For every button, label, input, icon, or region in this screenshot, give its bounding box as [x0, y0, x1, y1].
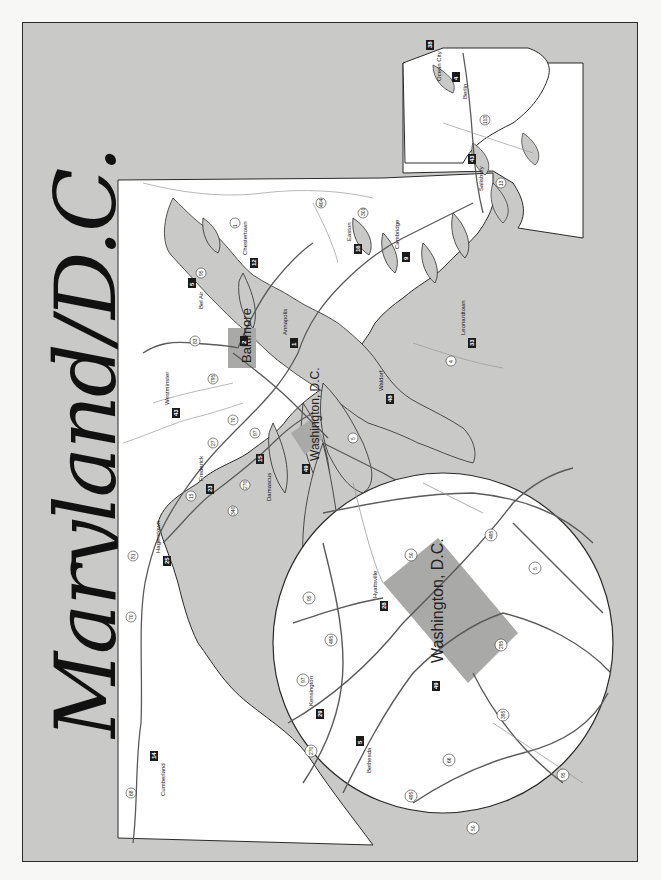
svg-text:Waldorf: Waldorf [378, 370, 384, 391]
inset-shield-395: 395 [497, 709, 509, 721]
svg-text:Leonardtown: Leonardtown [460, 300, 466, 335]
svg-text:15: 15 [188, 493, 194, 499]
svg-text:395: 395 [500, 710, 506, 719]
inset-washington-label: Washington, D.C. [429, 538, 446, 663]
route-shield-340: 340 [228, 506, 238, 516]
svg-text:Easton: Easton [346, 222, 352, 241]
inset-shield-50-south: 50 [467, 822, 479, 834]
svg-text:70: 70 [128, 614, 134, 620]
svg-text:70: 70 [230, 417, 236, 423]
svg-text:25: 25 [164, 557, 170, 564]
svg-text:Westminster: Westminster [164, 372, 170, 405]
route-shield-113: 113 [480, 115, 490, 125]
inset-shield-495-nw: 495 [325, 634, 337, 646]
svg-text:12: 12 [251, 259, 257, 266]
svg-text:5: 5 [532, 567, 538, 570]
inset-shield-66: 66 [443, 754, 455, 766]
svg-text:495: 495 [408, 791, 414, 800]
svg-text:Frederick: Frederick [198, 455, 204, 481]
map-frame: Maryland/D.C. [22, 22, 638, 862]
city-washington-dc[interactable]: 49 [302, 464, 310, 474]
svg-text:16: 16 [355, 245, 361, 252]
inset-shield-495-ne: 495 [485, 529, 497, 541]
route-shield-81: 81 [128, 551, 138, 561]
svg-text:49: 49 [433, 682, 439, 689]
svg-text:404: 404 [318, 198, 324, 207]
svg-text:23: 23 [207, 485, 213, 492]
svg-text:Cambridge: Cambridge [394, 219, 400, 249]
baltimore-label: Baltimore [239, 308, 254, 363]
svg-text:Cumberland: Cumberland [160, 763, 166, 796]
route-shield-301: 1 [230, 218, 240, 228]
route-shield-404: 404 [316, 198, 326, 208]
svg-text:5: 5 [350, 437, 356, 440]
svg-text:Hyattsville: Hyattsville [372, 570, 378, 598]
route-shield-15: 15 [186, 491, 196, 501]
route-shield-795: 795 [208, 374, 218, 384]
inset-shield-495-sw: 495 [405, 790, 417, 802]
svg-text:29: 29 [317, 710, 323, 717]
inset-shield-97: 97 [297, 674, 309, 686]
inset-city-washington-dc[interactable]: 49 [432, 681, 440, 691]
svg-text:66: 66 [446, 757, 452, 763]
svg-text:27: 27 [210, 440, 216, 446]
svg-text:495: 495 [488, 530, 494, 539]
svg-text:33: 33 [469, 339, 475, 346]
route-shield-270: 270 [240, 480, 250, 490]
svg-text:48: 48 [387, 395, 393, 402]
route-shield-97: 97 [250, 428, 260, 438]
svg-text:38: 38 [427, 41, 433, 48]
inset-shield-270: 270 [305, 745, 317, 757]
route-shield-83: 83 [190, 336, 200, 346]
svg-text:15: 15 [257, 455, 263, 462]
svg-text:13: 13 [498, 180, 504, 186]
svg-text:97: 97 [300, 677, 306, 683]
svg-text:Berlin: Berlin [462, 84, 468, 99]
inset-shield-50-north: 50 [405, 549, 417, 561]
route-shield-70: 70 [126, 612, 136, 622]
svg-text:Ocean City: Ocean City [436, 51, 442, 81]
svg-text:4: 4 [448, 360, 454, 363]
svg-text:97: 97 [252, 430, 258, 436]
svg-text:83: 83 [192, 338, 198, 344]
route-shield-4: 4 [446, 356, 456, 366]
washington-label: Washington, D.C. [308, 367, 322, 461]
city-baltimore[interactable]: 2 [240, 336, 248, 346]
svg-text:14: 14 [151, 752, 157, 759]
inset-shield-95-south: 95 [557, 769, 569, 781]
route-shield-68: 68 [126, 788, 136, 798]
svg-text:270: 270 [242, 480, 248, 489]
svg-text:50: 50 [408, 552, 414, 558]
svg-text:81: 81 [130, 553, 136, 559]
svg-text:95: 95 [560, 772, 566, 778]
route-shield-70b: 70 [228, 415, 238, 425]
svg-text:495: 495 [328, 635, 334, 644]
maryland-map: Baltimore Washington, D.C. Washington, D… [23, 23, 639, 863]
svg-text:50: 50 [470, 825, 476, 831]
city-leonardtown[interactable]: 33 Leonardtown [460, 300, 476, 348]
svg-text:43: 43 [469, 155, 475, 162]
route-shield-27: 27 [208, 438, 218, 448]
svg-text:95: 95 [198, 270, 204, 276]
city-gaithersburg[interactable]: 15 Damascus [256, 454, 272, 501]
inset-shield-295: 295 [495, 639, 507, 651]
svg-text:68: 68 [128, 790, 134, 796]
svg-text:Damascus: Damascus [266, 473, 272, 501]
svg-text:1: 1 [232, 224, 238, 227]
svg-text:113: 113 [482, 116, 488, 124]
svg-text:Salisbury: Salisbury [478, 166, 484, 191]
svg-text:Hagerstown: Hagerstown [155, 521, 161, 553]
svg-text:28: 28 [381, 602, 387, 609]
svg-text:295: 295 [498, 640, 504, 649]
svg-text:Bethesda: Bethesda [366, 747, 372, 773]
svg-text:43: 43 [173, 409, 179, 416]
svg-text:795: 795 [210, 374, 216, 383]
svg-text:Annapolis: Annapolis [282, 309, 288, 335]
svg-text:95: 95 [306, 595, 312, 601]
route-shield-13: 13 [496, 178, 506, 188]
route-shield-5: 5 [348, 433, 358, 443]
svg-text:270: 270 [308, 746, 314, 755]
route-shield-50: 301 [358, 207, 368, 218]
inset-shield-95-north: 95 [303, 592, 315, 604]
svg-text:Bel Air: Bel Air [198, 292, 204, 309]
